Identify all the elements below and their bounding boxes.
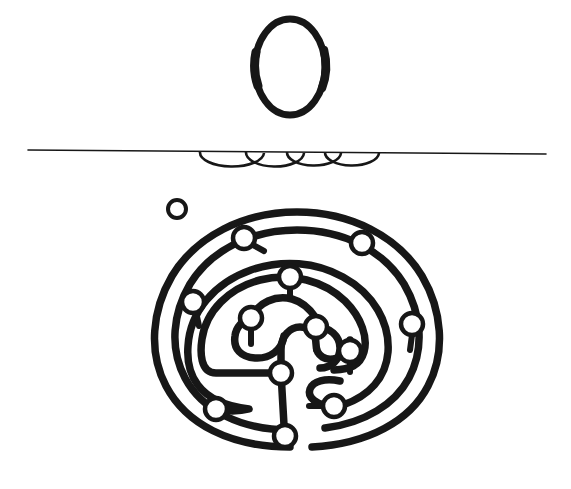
- figure-page: Labyrinth line drawing: [0, 0, 571, 489]
- labyrinth-node-inner-left: [240, 307, 262, 329]
- labyrinth-node-upper-center: [279, 266, 301, 288]
- labyrinth-figure-canvas: [0, 0, 571, 489]
- labyrinth-node-inner-right: [305, 316, 327, 338]
- labyrinth-node-inner-lower-right: [339, 340, 361, 362]
- labyrinth-node-core-junction: [270, 362, 292, 384]
- labyrinth-node-bottom-right: [323, 395, 345, 417]
- labyrinth-node-left-mid: [182, 291, 204, 313]
- labyrinth-node-top-left-outer: [233, 227, 255, 249]
- labyrinth-node-entrance: [274, 425, 296, 447]
- labyrinth-node-top-right-outer: [351, 232, 373, 254]
- labyrinth-bottom-left-stub: [227, 409, 243, 410]
- labyrinth-right-mid-stub: [410, 335, 412, 350]
- labyrinth-node-right-mid: [401, 313, 423, 335]
- labyrinth-node-bottom-left: [205, 398, 227, 420]
